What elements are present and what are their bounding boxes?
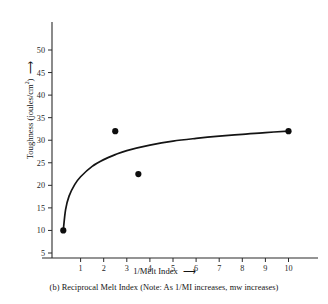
- data-point-marker: [285, 128, 291, 134]
- y-tick-label: 15: [37, 204, 45, 213]
- fitted-curve-path: [63, 131, 288, 230]
- y-tick-label: 25: [37, 159, 45, 168]
- y-tick-label: 40: [37, 91, 45, 100]
- figure-panel: 5101520253035404550 12345678910 Toughnes…: [0, 0, 328, 304]
- y-tick-label: 10: [37, 226, 45, 235]
- y-tick-label: 5: [41, 249, 45, 258]
- y-tick-label: 45: [37, 69, 45, 78]
- data-point-marker: [112, 128, 118, 134]
- y-tick-label: 30: [37, 136, 45, 145]
- y-axis-title-exponent: 2: [24, 81, 30, 84]
- y-tick-label: 20: [37, 181, 45, 190]
- data-point-marker: [135, 171, 141, 177]
- y-axis-title: Toughness (joules/cm2)⟶: [24, 35, 35, 185]
- y-axis-ticks: 5101520253035404550: [37, 46, 52, 258]
- data-point-marker: [60, 227, 66, 233]
- y-tick-label: 35: [37, 114, 45, 123]
- y-axis-title-prefix: Toughness (joules/cm: [24, 84, 34, 159]
- x-axis-title-text: 1/Melt Index: [133, 266, 178, 276]
- y-axis-title-text: Toughness (joules/cm2): [24, 79, 34, 160]
- y-axis-arrow-icon: ⟶: [24, 62, 34, 74]
- x-axis-arrow-icon: ⟶: [183, 266, 195, 276]
- y-axis-title-suffix: ): [24, 79, 34, 82]
- y-tick-label: 50: [37, 46, 45, 55]
- data-points: [60, 128, 291, 233]
- figure-caption: (b) Reciprocal Melt Index (Note: As 1/MI…: [0, 283, 328, 292]
- x-axis-title: 1/Melt Index⟶: [0, 266, 328, 276]
- fitted-curve: [63, 131, 288, 230]
- chart-plot-area: 5101520253035404550 12345678910: [0, 0, 328, 304]
